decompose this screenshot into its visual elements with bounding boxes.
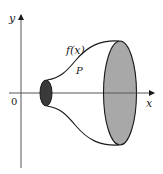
function-label: f(x) [65,44,85,57]
point-label: P [75,65,83,76]
small-disk [40,80,52,106]
origin-label: 0 [11,96,17,107]
x-axis-label: x [146,97,153,110]
surface-of-revolution-diagram: y x 0 f(x) P [0,0,163,174]
y-axis-label: y [8,12,16,25]
